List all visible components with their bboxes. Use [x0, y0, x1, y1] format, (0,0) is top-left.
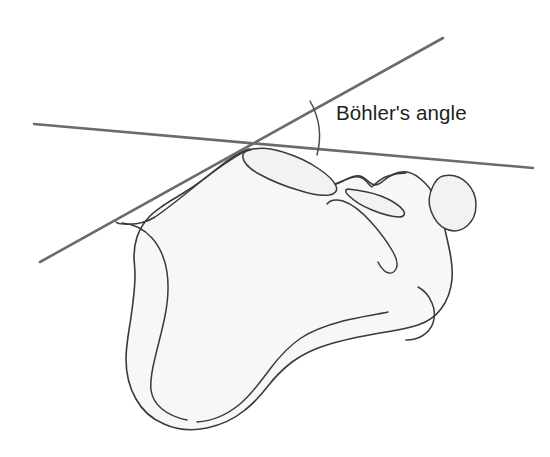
calcaneus-body-outline — [126, 149, 452, 430]
bohler-angle-arc — [310, 101, 319, 155]
calcaneus-illustration — [0, 0, 550, 457]
bohler-angle-label: Böhler's angle — [336, 103, 467, 124]
bohler-angle-figure: Böhler's angle — [0, 0, 550, 457]
